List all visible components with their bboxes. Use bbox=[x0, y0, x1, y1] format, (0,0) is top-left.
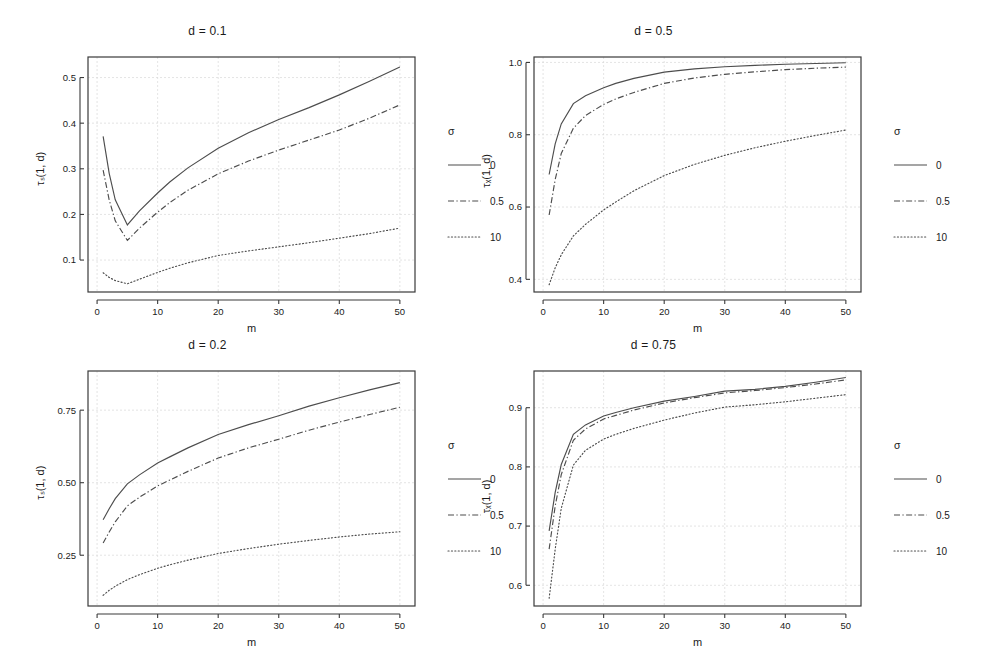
x-tick-label: 30 bbox=[719, 620, 730, 631]
y-tick-label: 0.25 bbox=[58, 550, 77, 561]
x-tick-label: 20 bbox=[213, 306, 224, 317]
x-tick-label: 0 bbox=[94, 306, 99, 317]
plot-area: 01020304050m0.40.60.81.0τₓ(1, d)σ00.510 bbox=[446, 20, 942, 334]
y-tick-label: 1.0 bbox=[509, 57, 522, 68]
series-line-sigma-0.5 bbox=[103, 407, 400, 543]
y-tick-label: 0.6 bbox=[509, 201, 522, 212]
panel-title: d = 0.1 bbox=[0, 24, 415, 38]
series-line-sigma-10 bbox=[103, 532, 400, 596]
y-axis-title: τₓ(1, d) bbox=[480, 480, 492, 514]
x-tick-label: 0 bbox=[94, 620, 99, 631]
grid-lines bbox=[88, 57, 415, 292]
plot-area: 01020304050m0.10.20.30.40.5τₛ(1, d)σ00.5… bbox=[0, 20, 496, 334]
y-axis: 0.10.20.30.40.5τₛ(1, d) bbox=[34, 72, 84, 266]
x-tick-label: 30 bbox=[719, 306, 730, 317]
x-tick-label: 50 bbox=[395, 306, 406, 317]
x-axis-title: m bbox=[247, 636, 256, 648]
series-line-sigma-0.5 bbox=[549, 67, 846, 215]
x-tick-label: 10 bbox=[598, 306, 609, 317]
y-axis-title: τₓ(1, d) bbox=[480, 154, 492, 188]
y-tick-label: 0.7 bbox=[509, 520, 522, 531]
y-tick-label: 0.75 bbox=[58, 405, 77, 416]
grid-lines bbox=[88, 371, 415, 606]
x-tick-label: 30 bbox=[273, 620, 284, 631]
panel-title: d = 0.2 bbox=[0, 338, 415, 352]
x-axis: 01020304050m bbox=[94, 300, 405, 334]
y-tick-label: 0.6 bbox=[509, 580, 522, 591]
legend-title: σ bbox=[894, 439, 901, 451]
panel-title: d = 0.75 bbox=[446, 338, 861, 352]
plot-border bbox=[534, 57, 861, 292]
y-axis-title: τₛ(1, d) bbox=[34, 152, 46, 186]
x-tick-label: 0 bbox=[540, 306, 545, 317]
series-line-sigma-0 bbox=[103, 383, 400, 520]
plot-border bbox=[88, 57, 415, 292]
x-axis: 01020304050m bbox=[94, 614, 405, 648]
panel-title: d = 0.5 bbox=[446, 24, 861, 38]
legend: σ00.510 bbox=[894, 125, 950, 243]
series-group bbox=[103, 67, 400, 284]
legend-item-sigma-0.5[interactable]: 0.5 bbox=[894, 196, 950, 207]
legend-item-sigma-10[interactable]: 10 bbox=[894, 232, 948, 243]
legend-item-sigma-10[interactable]: 10 bbox=[894, 546, 948, 557]
x-axis: 01020304050m bbox=[540, 300, 851, 334]
y-axis-title: τₛ(1, d) bbox=[34, 466, 46, 500]
y-tick-label: 0.9 bbox=[509, 402, 522, 413]
y-tick-label: 0.8 bbox=[509, 129, 522, 140]
y-axis: 0.250.500.75τₛ(1, d) bbox=[34, 405, 84, 561]
x-tick-label: 10 bbox=[598, 620, 609, 631]
legend-item-label: 0 bbox=[936, 160, 942, 171]
series-line-sigma-0.5 bbox=[103, 105, 400, 241]
y-tick-label: 0.2 bbox=[63, 209, 76, 220]
y-tick-label: 0.50 bbox=[58, 477, 77, 488]
x-axis-title: m bbox=[693, 322, 702, 334]
chart-panel-bottom-left: d = 0.201020304050m0.250.500.75τₛ(1, d)σ… bbox=[0, 334, 496, 648]
y-tick-label: 0.8 bbox=[509, 461, 522, 472]
chart-panel-top-right: d = 0.501020304050m0.40.60.81.0τₓ(1, d)σ… bbox=[446, 20, 942, 334]
plot-area: 01020304050m0.60.70.80.9τₓ(1, d)σ00.510 bbox=[446, 334, 942, 648]
series-group bbox=[549, 378, 846, 599]
legend-item-sigma-0.5[interactable]: 0.5 bbox=[894, 510, 950, 521]
legend-item-sigma-0[interactable]: 0 bbox=[894, 474, 942, 485]
plot-border bbox=[88, 371, 415, 606]
legend-title: σ bbox=[894, 125, 901, 137]
x-tick-label: 30 bbox=[273, 306, 284, 317]
series-line-sigma-0.5 bbox=[549, 380, 846, 549]
x-tick-label: 40 bbox=[334, 306, 345, 317]
x-tick-label: 50 bbox=[395, 620, 406, 631]
y-tick-label: 0.3 bbox=[63, 163, 76, 174]
series-line-sigma-0 bbox=[549, 63, 846, 175]
series-line-sigma-0 bbox=[103, 67, 400, 225]
legend-item-label: 0.5 bbox=[936, 510, 950, 521]
series-line-sigma-10 bbox=[103, 228, 400, 284]
series-line-sigma-10 bbox=[549, 130, 846, 285]
legend-item-label: 10 bbox=[936, 232, 948, 243]
y-tick-label: 0.5 bbox=[63, 72, 76, 83]
x-tick-label: 40 bbox=[780, 620, 791, 631]
x-tick-label: 50 bbox=[841, 306, 852, 317]
legend-item-sigma-0[interactable]: 0 bbox=[894, 160, 942, 171]
x-tick-label: 20 bbox=[213, 620, 224, 631]
x-axis-title: m bbox=[693, 636, 702, 648]
legend-item-label: 10 bbox=[936, 546, 948, 557]
plot-area: 01020304050m0.250.500.75τₛ(1, d)σ00.510 bbox=[0, 334, 496, 648]
y-axis: 0.40.60.81.0τₓ(1, d) bbox=[480, 57, 530, 285]
legend: σ00.510 bbox=[894, 439, 950, 557]
legend-item-label: 0 bbox=[936, 474, 942, 485]
chart-panel-top-left: d = 0.101020304050m0.10.20.30.40.5τₛ(1, … bbox=[0, 20, 496, 334]
figure-canvas: d = 0.101020304050m0.10.20.30.40.5τₛ(1, … bbox=[0, 0, 992, 667]
series-group bbox=[103, 383, 400, 596]
x-tick-label: 40 bbox=[334, 620, 345, 631]
plot-border bbox=[534, 371, 861, 606]
x-tick-label: 40 bbox=[780, 306, 791, 317]
y-tick-label: 0.4 bbox=[509, 274, 522, 285]
x-tick-label: 10 bbox=[152, 306, 163, 317]
series-line-sigma-0 bbox=[549, 378, 846, 531]
chart-panel-bottom-right: d = 0.7501020304050m0.60.70.80.9τₓ(1, d)… bbox=[446, 334, 942, 648]
x-tick-label: 20 bbox=[659, 306, 670, 317]
x-tick-label: 0 bbox=[540, 620, 545, 631]
y-tick-label: 0.1 bbox=[63, 254, 76, 265]
y-tick-label: 0.4 bbox=[63, 118, 76, 129]
x-tick-label: 10 bbox=[152, 620, 163, 631]
legend-item-label: 0.5 bbox=[936, 196, 950, 207]
